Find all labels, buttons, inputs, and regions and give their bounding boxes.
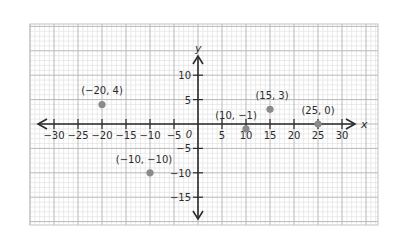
y-tick-label: −10 — [170, 168, 191, 179]
x-axis-label: x — [360, 118, 368, 131]
x-tick-label: 25 — [312, 130, 325, 141]
y-axis-label: y — [194, 42, 202, 55]
x-tick-label: −25 — [67, 130, 88, 141]
y-tick-label: 10 — [178, 70, 191, 81]
origin-label: 0 — [186, 129, 192, 140]
x-tick-label: −15 — [115, 130, 136, 141]
data-point-label: (25, 0) — [301, 105, 334, 116]
data-point-label: (10, −1) — [215, 110, 257, 121]
data-point-label: (−10, −10) — [116, 154, 172, 165]
x-tick-label: −10 — [139, 130, 160, 141]
data-point-label: (−20, 4) — [81, 85, 123, 96]
data-point — [242, 125, 249, 132]
x-tick-label: 30 — [336, 130, 349, 141]
y-tick-label: −15 — [170, 192, 191, 203]
y-tick-label: −5 — [176, 143, 191, 154]
data-point — [266, 106, 273, 113]
data-point — [146, 169, 153, 176]
x-tick-label: 20 — [288, 130, 301, 141]
data-point — [98, 101, 105, 108]
x-tick-label: 5 — [219, 130, 225, 141]
y-tick-label: 5 — [185, 95, 191, 106]
x-tick-label: −20 — [91, 130, 112, 141]
x-tick-label: −30 — [43, 130, 64, 141]
x-tick-label: −5 — [167, 130, 182, 141]
coordinate-plane: xy −30−25−20−15−10−551015202530105−5−10−… — [0, 0, 406, 237]
data-point-label: (15, 3) — [255, 90, 288, 101]
scatter-plot: xy −30−25−20−15−10−551015202530105−5−10−… — [0, 0, 406, 237]
x-tick-label: 15 — [264, 130, 277, 141]
data-point — [314, 120, 321, 127]
